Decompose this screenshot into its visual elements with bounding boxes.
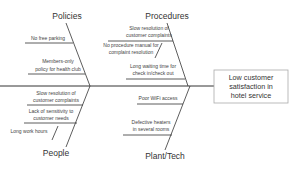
policies-bone [66,23,90,86]
people-cause-2-line-1: Lack of sensitivity to [29,108,74,114]
plant-tech-cause-1-line-1: Poor WiFi access [139,95,178,101]
procedures-cause-3-line-2: check in/check out [132,70,174,76]
people-cause-1-line-1: Slow resolution of [36,90,76,96]
effect-line-1: Low customer [229,73,274,82]
procedures-cause-3-line-1: Long waiting time for [130,63,176,69]
procedures-cause-2-line-1: No procedure manual for [103,42,159,48]
plant-tech-cause-2-line-1: Defective heaters [132,119,171,125]
category-plant-tech-label: Plant/Tech [145,151,185,161]
procedures-cause-1-line-1: Slow resolution of [129,25,169,31]
policies-cause-2-line-1: Members-only [42,58,74,64]
policies-cause-2-line-2: policy for health club [35,66,81,72]
plant-tech-cause-2-line-2: in several rooms [133,126,170,132]
procedures-cause-1-line-2: customer complaints [126,32,172,38]
category-policies-label: Policies [52,11,81,21]
effect-line-2: satisfaction in [229,82,273,91]
effect-line-3: hotel service [231,91,271,100]
people-cause-1-line-2: customer complaints [33,97,79,103]
people-cause-2-line-2: customer needs [33,115,69,121]
policies-cause-1-line-1: No free parking [31,35,65,41]
fishbone-diagram: Low customer satisfaction in hotel servi… [0,0,290,171]
people-cause-3-subbone [52,126,58,140]
category-people-label: People [43,148,70,158]
procedures-cause-2-line-2: complaint resolution [109,49,154,55]
people-cause-3-line-1: Long work hours [11,128,48,134]
category-procedures-label: Procedures [145,11,188,21]
